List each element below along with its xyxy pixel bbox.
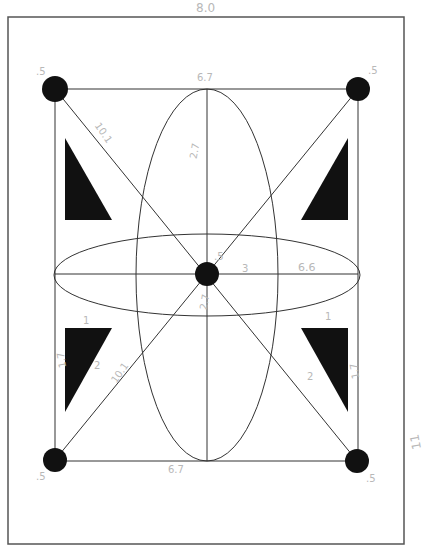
dot-bottom-right [345, 449, 369, 473]
dot-top-right [346, 77, 370, 101]
dot-top-left [42, 76, 68, 102]
dot-bottom-left [43, 448, 67, 472]
dot-center [195, 262, 219, 286]
triangle-bottom-right [301, 328, 348, 412]
